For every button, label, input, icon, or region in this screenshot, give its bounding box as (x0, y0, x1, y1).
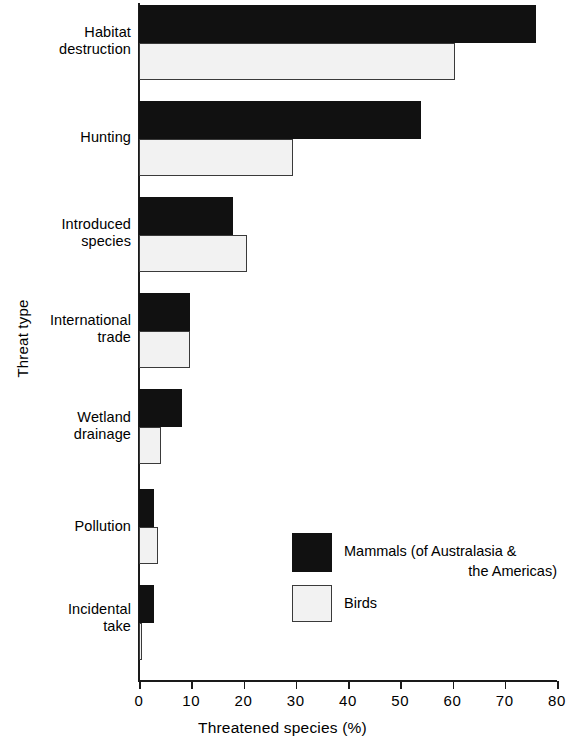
category-label-wetland-drainage: Wetland drainage (0, 409, 131, 443)
bar-hunting-mammals (139, 101, 421, 139)
x-tick-60 (453, 681, 455, 689)
category-label-line1: Habitat (0, 24, 131, 41)
category-label-line1: Hunting (0, 129, 131, 146)
legend-label-line2: the Americas) (344, 561, 557, 581)
legend-item-birds: Birds (292, 585, 557, 625)
category-label-line1: Wetland (0, 409, 131, 426)
bar-pollution-birds (139, 527, 158, 564)
category-label-line2: species (0, 233, 131, 250)
category-label-habitat-destruction: Habitat destruction (0, 24, 131, 58)
category-label-line2: take (0, 618, 131, 635)
x-tick-50 (400, 681, 402, 689)
x-tick-80 (557, 681, 559, 689)
category-label-line2: drainage (0, 426, 131, 443)
category-label-line1: Introduced (0, 216, 131, 233)
legend-label-line1: Mammals (of Australasia & (344, 541, 557, 561)
bar-hunting-birds (139, 139, 293, 176)
x-tick-0 (139, 681, 141, 689)
x-tick-label-20: 20 (224, 692, 264, 709)
legend-swatch-mammals (292, 533, 332, 572)
x-tick-40 (348, 681, 350, 689)
bar-international-trade-birds (139, 331, 190, 368)
bar-international-trade-mammals (139, 293, 190, 331)
x-tick-label-10: 10 (171, 692, 211, 709)
category-label-international-trade: International trade (0, 312, 131, 346)
x-tick-label-60: 60 (433, 692, 473, 709)
x-tick-label-0: 0 (119, 692, 159, 709)
category-label-introduced-species: Introduced species (0, 216, 131, 250)
bar-wetland-drainage-birds (139, 427, 161, 464)
category-label-pollution: Pollution (0, 518, 131, 535)
category-label-line2: destruction (0, 41, 131, 58)
x-axis-title: Threatened species (%) (0, 719, 565, 737)
category-label-line2: trade (0, 329, 131, 346)
bar-pollution-mammals (139, 489, 154, 527)
bar-habitat-destruction-mammals (139, 5, 536, 43)
x-tick-70 (505, 681, 507, 689)
x-tick-label-70: 70 (485, 692, 525, 709)
legend-label-mammals: Mammals (of Australasia & the Americas) (344, 541, 557, 581)
x-tick-10 (191, 681, 193, 689)
x-tick-label-80: 80 (537, 692, 570, 709)
x-tick-20 (244, 681, 246, 689)
legend-item-mammals: Mammals (of Australasia & the Americas) (292, 533, 557, 585)
x-tick-label-40: 40 (328, 692, 368, 709)
category-label-line1: International (0, 312, 131, 329)
category-label-line1: Pollution (0, 518, 131, 535)
category-label-hunting: Hunting (0, 129, 131, 146)
legend-swatch-birds (292, 585, 332, 622)
bar-introduced-species-birds (139, 235, 247, 272)
x-tick-30 (296, 681, 298, 689)
bar-incidental-take-birds (139, 623, 142, 660)
legend: Mammals (of Australasia & the Americas) … (292, 533, 557, 625)
bar-incidental-take-mammals (139, 585, 154, 623)
x-tick-label-30: 30 (276, 692, 316, 709)
bar-habitat-destruction-birds (139, 43, 455, 80)
category-label-incidental-take: Incidental take (0, 601, 131, 635)
category-label-line1: Incidental (0, 601, 131, 618)
bar-wetland-drainage-mammals (139, 389, 182, 427)
x-tick-label-50: 50 (380, 692, 420, 709)
bar-introduced-species-mammals (139, 197, 233, 235)
legend-label-birds: Birds (344, 593, 557, 613)
